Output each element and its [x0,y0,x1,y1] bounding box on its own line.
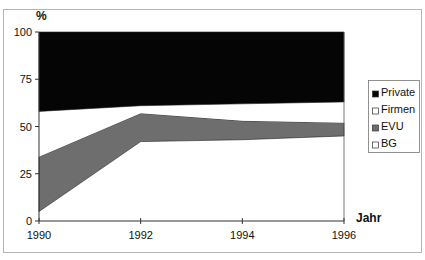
legend-label-firmen: Firmen [381,103,415,115]
x-tick-label: 1992 [128,229,152,241]
y-tick-label: 0 [26,215,32,227]
y-tick-label: 75 [20,73,32,85]
x-tick-label: 1996 [332,229,356,241]
legend-swatch-private [373,91,379,97]
x-axis-title: Jahr [356,211,382,225]
legend-swatch-firmen [373,108,379,114]
area-private [39,32,344,111]
legend-label-private: Private [381,86,415,98]
stacked-area-chart: 02550751001990199219941996 % Jahr Privat… [0,0,425,260]
legend-swatch-evu [373,125,379,131]
y-tick-label: 100 [14,26,32,38]
y-axis-title: % [36,9,47,23]
y-tick-label: 50 [20,121,32,133]
legend-swatch-bg [373,142,379,148]
legend-label-bg: BG [381,137,397,149]
area-layer [39,32,344,221]
x-tick-label: 1994 [230,229,254,241]
legend: PrivateFirmenEVUBG [369,81,420,153]
y-tick-label: 25 [20,168,32,180]
legend-label-evu: EVU [381,120,404,132]
x-tick-label: 1990 [27,229,51,241]
